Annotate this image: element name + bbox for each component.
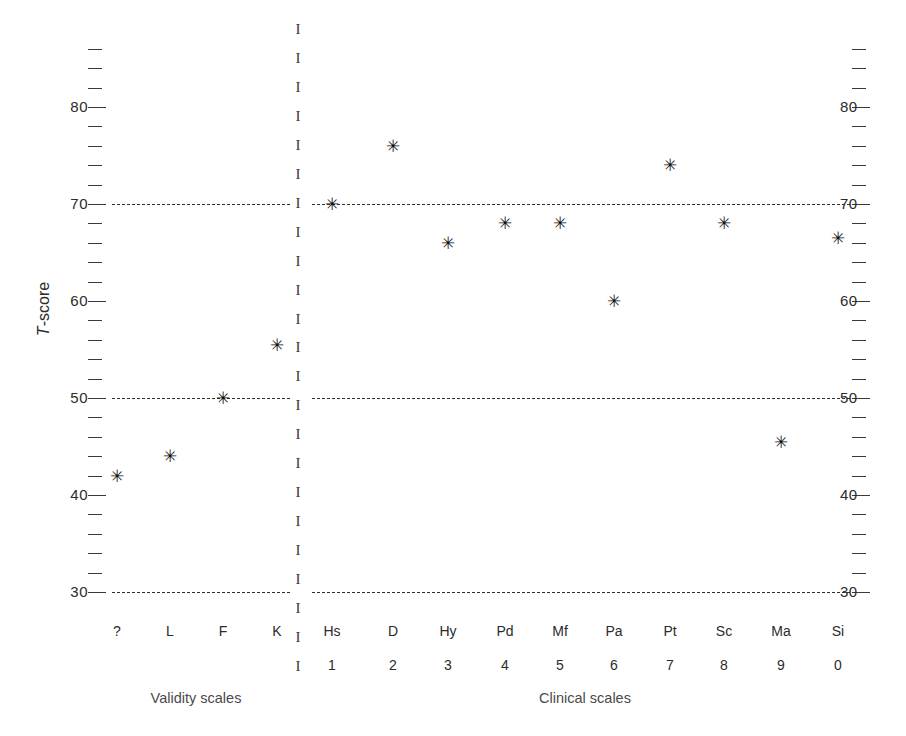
y-axis-minor-tick-left	[88, 553, 102, 554]
y-axis-minor-tick-right	[852, 223, 866, 224]
scale-label-Pd: Pd	[496, 624, 513, 638]
y-axis-minor-tick-right	[852, 417, 866, 418]
y-axis-minor-tick-right	[852, 340, 866, 341]
reference-line-50-clinical	[312, 398, 850, 399]
scale-number-Hs: 1	[328, 658, 336, 672]
scale-label-Ma: Ma	[771, 624, 790, 638]
y-axis-minor-tick-left	[88, 534, 102, 535]
data-point-Hy[interactable]: ✳	[441, 234, 455, 251]
scale-number-Ma: 9	[777, 658, 785, 672]
data-point-L[interactable]: ✳	[163, 448, 177, 465]
y-axis-minor-tick-left	[88, 262, 102, 263]
y-axis-major-tick-left	[88, 204, 106, 205]
y-axis-label-left-40: 40	[70, 487, 88, 502]
data-point-Hs[interactable]: ✳	[325, 196, 339, 213]
divider-glyph: I	[296, 601, 301, 616]
y-axis-minor-tick-right	[852, 165, 866, 166]
scale-number-Si: 0	[834, 658, 842, 672]
scale-label-Pa: Pa	[605, 624, 622, 638]
y-axis-minor-tick-right	[852, 534, 866, 535]
reference-line-30-validity	[112, 592, 290, 593]
scale-label-Mf: Mf	[552, 624, 568, 638]
y-axis-minor-tick-right	[852, 476, 866, 477]
y-axis-minor-tick-right	[852, 49, 866, 50]
y-axis-minor-tick-right	[852, 185, 866, 186]
divider-glyph: I	[296, 369, 301, 384]
scale-label-Hs: Hs	[323, 624, 340, 638]
y-axis-label-right-40: 40	[840, 487, 858, 502]
divider-glyph: I	[296, 167, 301, 182]
y-axis-major-tick-left	[88, 107, 106, 108]
divider-glyph: I	[296, 340, 301, 355]
data-point-Ma[interactable]: ✳	[774, 433, 788, 450]
divider-glyph: I	[296, 572, 301, 587]
y-axis-minor-tick-right	[852, 553, 866, 554]
divider-glyph: I	[296, 80, 301, 95]
reference-line-70-validity	[112, 204, 290, 205]
scale-number-Mf: 5	[556, 658, 564, 672]
scale-number-Pt: 7	[666, 658, 674, 672]
y-axis-minor-tick-right	[852, 88, 866, 89]
scale-label-Sc: Sc	[716, 624, 732, 638]
y-axis-minor-tick-left	[88, 49, 102, 50]
scale-number-Sc: 8	[720, 658, 728, 672]
data-point-Pa[interactable]: ✳	[607, 293, 621, 310]
divider-glyph: I	[296, 543, 301, 558]
divider-glyph: I	[296, 138, 301, 153]
scale-number-Hy: 3	[444, 658, 452, 672]
y-axis-major-tick-left	[88, 398, 106, 399]
scale-number-Pd: 4	[501, 658, 509, 672]
y-axis-minor-tick-left	[88, 146, 102, 147]
y-axis-minor-tick-left	[88, 340, 102, 341]
mmpi-profile-chart: T-score 303040405050606070708080 IIIIIII…	[0, 0, 906, 736]
y-axis-minor-tick-left	[88, 476, 102, 477]
divider-glyph: I	[296, 51, 301, 66]
divider-glyph: I	[296, 22, 301, 37]
y-axis-minor-tick-left	[88, 185, 102, 186]
reference-line-70-clinical	[312, 204, 850, 205]
y-axis-major-tick-left	[88, 301, 106, 302]
y-axis-minor-tick-right	[852, 573, 866, 574]
divider-glyph: I	[296, 398, 301, 413]
y-axis-minor-tick-left	[88, 88, 102, 89]
y-axis-minor-tick-left	[88, 359, 102, 360]
data-point-Pt[interactable]: ✳	[663, 157, 677, 174]
data-point-K[interactable]: ✳	[270, 336, 284, 353]
scale-label-F: F	[219, 624, 228, 638]
y-axis-label-right-60: 60	[840, 293, 858, 308]
divider-glyph: I	[296, 283, 301, 298]
divider-glyph: I	[296, 427, 301, 442]
scale-label-cannot-say: ?	[113, 624, 121, 638]
divider-glyph: I	[296, 225, 301, 240]
y-axis-major-tick-left	[88, 495, 106, 496]
group-caption-validity: Validity scales	[151, 690, 242, 706]
data-point-Si[interactable]: ✳	[831, 229, 845, 246]
y-axis-minor-tick-right	[852, 456, 866, 457]
y-axis-minor-tick-left	[88, 456, 102, 457]
data-point-Sc[interactable]: ✳	[717, 215, 731, 232]
reference-line-30-clinical	[312, 592, 850, 593]
y-axis-minor-tick-left	[88, 417, 102, 418]
divider-glyph: I	[296, 514, 301, 529]
scale-label-Si: Si	[832, 624, 844, 638]
data-point-D[interactable]: ✳	[386, 137, 400, 154]
y-axis-label-left-30: 30	[70, 584, 88, 599]
divider-glyph: I	[296, 659, 301, 674]
y-axis-minor-tick-left	[88, 243, 102, 244]
y-axis-label-left-80: 80	[70, 99, 88, 114]
y-axis-minor-tick-right	[852, 262, 866, 263]
y-axis-minor-tick-right	[852, 437, 866, 438]
y-axis-label-left-50: 50	[70, 390, 88, 405]
y-axis-minor-tick-left	[88, 126, 102, 127]
y-axis-label-right-80: 80	[840, 99, 858, 114]
group-caption-clinical: Clinical scales	[539, 690, 631, 706]
y-axis-minor-tick-left	[88, 165, 102, 166]
data-point-Pd[interactable]: ✳	[498, 215, 512, 232]
divider-glyph: I	[296, 109, 301, 124]
data-point-F[interactable]: ✳	[216, 390, 230, 407]
data-point-cannot-say[interactable]: ✳	[110, 467, 124, 484]
data-point-Mf[interactable]: ✳	[553, 215, 567, 232]
scale-number-D: 2	[389, 658, 397, 672]
y-axis-minor-tick-left	[88, 514, 102, 515]
y-axis-minor-tick-right	[852, 68, 866, 69]
